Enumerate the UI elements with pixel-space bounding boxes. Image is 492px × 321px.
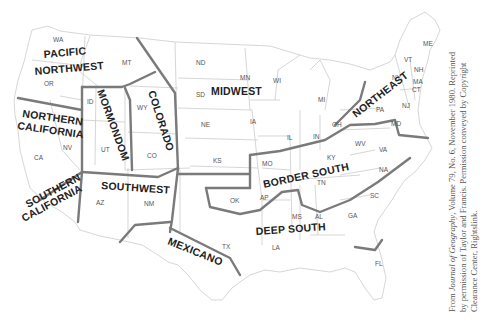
state-or: OR: [44, 80, 54, 87]
state-ca: CA: [34, 154, 44, 161]
state-ks: KS: [213, 157, 222, 164]
state-va: VA: [379, 146, 388, 153]
state-wy: WY: [137, 104, 148, 111]
state-na: NA: [379, 166, 389, 173]
state-pa: PA: [376, 106, 385, 113]
state-az: AZ: [96, 199, 104, 206]
state-la: LA: [272, 244, 281, 251]
state-oh: OH: [332, 121, 342, 128]
region-border-south: BORDER SOUTH: [262, 160, 350, 190]
state-ut: UT: [101, 146, 110, 153]
state-me: ME: [423, 40, 433, 47]
state-md: MD: [391, 120, 401, 127]
state-ct: CT: [412, 86, 421, 93]
state-in: IN: [313, 133, 320, 140]
region-midwest: MIDWEST: [211, 85, 262, 97]
copyright-credit: From Journal of Geography, Volume 79, No…: [447, 12, 480, 312]
boundary-southwest-east: [170, 168, 178, 232]
state-sc: SC: [370, 192, 379, 199]
state-ms: MS: [292, 213, 302, 220]
state-mo: MO: [262, 160, 272, 167]
state-fl: FL: [375, 260, 383, 267]
state-nv: NV: [63, 144, 73, 151]
state-ma: MA: [413, 78, 423, 85]
state-ky: KY: [327, 154, 336, 161]
region-pacific-northwest-line1: PACIFIC: [43, 44, 87, 60]
state-tx: TX: [222, 243, 231, 250]
credit-prefix: From: [447, 291, 457, 312]
state-vt: VT: [404, 56, 412, 63]
state-mt: MT: [122, 59, 131, 66]
credit-line2: by permission of Taylor and Francis. Per…: [458, 12, 469, 312]
state-ap: AP: [260, 194, 269, 201]
region-southwest: SOUTHWEST: [101, 179, 171, 196]
state-mi: MI: [318, 96, 325, 103]
state-ne: NE: [201, 121, 211, 128]
region-boundaries: [18, 38, 428, 275]
state-ga: GA: [348, 212, 358, 219]
region-colorado: COLORADO: [146, 89, 177, 152]
us-dialect-map: WA OR CA ID NV MT WY UT CO AZ NM ND SD N…: [0, 0, 492, 321]
state-co: CO: [147, 152, 157, 159]
credit-line3: Clearance Center, Rightslink.: [469, 12, 480, 312]
boundary-southwest-bottom: [120, 222, 170, 242]
state-mn: MN: [240, 74, 250, 81]
boundary-florida: [355, 240, 382, 250]
credit-rest-line1: , Volume 79, No. 6, November 1980. Repri…: [447, 52, 457, 215]
state-tn: TN: [317, 179, 326, 186]
credit-journal: Journal of Geography: [447, 215, 457, 291]
region-deep-south: DEEP SOUTH: [255, 220, 326, 237]
state-nj: NJ: [402, 102, 410, 109]
boundary-mormondom-top: [82, 72, 155, 87]
state-al: AL: [315, 213, 323, 220]
state-nh: NH: [414, 66, 424, 73]
state-wi: WI: [273, 77, 281, 84]
state-ok: OK: [230, 197, 240, 204]
region-labels: PACIFIC NORTHWEST NORTHERN CALIFORNIA SO…: [17, 44, 411, 267]
state-nm: NM: [144, 200, 154, 207]
state-id: ID: [87, 98, 94, 105]
state-wa: WA: [53, 36, 64, 43]
state-il: IL: [287, 134, 293, 141]
boundary-southwest-top: [82, 168, 178, 177]
state-wv: WV: [355, 140, 366, 147]
state-ia: IA: [250, 118, 257, 125]
state-sd: SD: [196, 91, 205, 98]
state-nd: ND: [196, 59, 206, 66]
